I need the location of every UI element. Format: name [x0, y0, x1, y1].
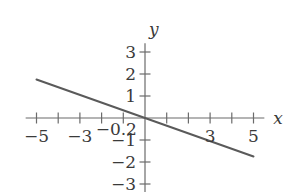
- y-tick-label: −3: [111, 176, 136, 193]
- x-tick-label: −3: [67, 128, 92, 145]
- y-tick-label: −2: [111, 154, 136, 171]
- x-tick-label: 5: [248, 128, 259, 145]
- y-tick-label: 1: [125, 88, 136, 105]
- y-tick-label: −1: [111, 132, 136, 149]
- y-axis-label: y: [149, 21, 159, 38]
- x-tick-label: −5: [24, 128, 49, 145]
- coordinate-plane: [0, 0, 291, 192]
- y-tick-label: 3: [125, 44, 136, 61]
- chart-figure: x y −0.2 −5−335−3−2−1123: [0, 0, 291, 192]
- y-tick-label: 2: [125, 66, 136, 83]
- x-axis-label: x: [273, 110, 283, 127]
- x-tick-label: 3: [205, 128, 216, 145]
